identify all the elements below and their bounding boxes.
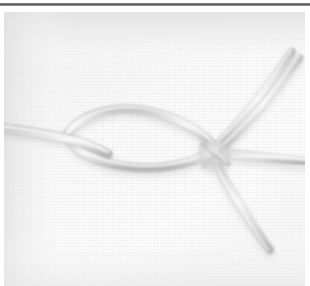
rope-knot-photo-canvas: [4, 12, 305, 286]
exposure-wash: [4, 12, 305, 286]
photograph: [4, 12, 305, 286]
screenshot-root: [0, 0, 310, 286]
right-white-margin: [305, 12, 310, 286]
